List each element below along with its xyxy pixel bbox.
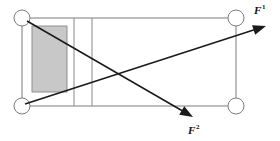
corner-circle-bottom-right [228, 98, 244, 114]
force-label-f1: F [253, 4, 262, 16]
force-diagram-figure: F 1 F 2 [0, 0, 280, 141]
corner-circle-top-left [14, 10, 30, 26]
corner-circle-bottom-left [14, 98, 30, 114]
force-vector-f2-arrowhead [179, 106, 193, 117]
force-label-f1-superscript: 1 [262, 3, 266, 11]
force-label-f2: F [187, 124, 196, 136]
gray-block [32, 26, 67, 92]
force-label-f2-superscript: 2 [196, 123, 200, 131]
corner-circle-top-right [228, 10, 244, 26]
force-vector-f1-arrowhead [252, 25, 266, 35]
diagram-canvas: F 1 F 2 [0, 0, 280, 141]
